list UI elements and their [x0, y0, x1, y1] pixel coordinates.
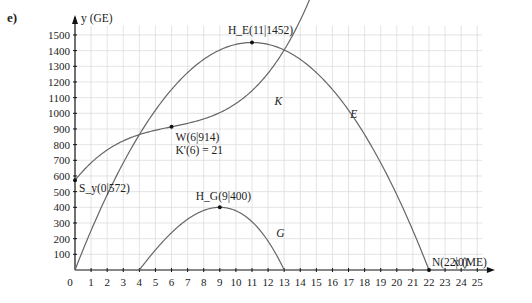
y-tick-label: 900 — [54, 123, 71, 135]
x-tick-label: 11 — [247, 276, 258, 288]
y-tick-label: 1500 — [48, 29, 71, 41]
x-axis-arrow-icon — [487, 267, 495, 273]
y-tick-label: 100 — [54, 248, 71, 260]
point-s_y — [73, 178, 77, 182]
curve-label-e: E — [349, 108, 357, 120]
x-tick-label: 16 — [327, 276, 339, 288]
x-tick-label: 22 — [423, 276, 434, 288]
y-tick-label: 500 — [54, 186, 71, 198]
y-tick-label: 1000 — [48, 107, 71, 119]
y-tick-label: 400 — [54, 201, 71, 213]
x-tick-label: 7 — [185, 276, 191, 288]
x-tick-label: 18 — [359, 276, 371, 288]
y-tick-label: 700 — [54, 154, 71, 166]
x-tick-label: 25 — [472, 276, 484, 288]
point-label-w: W(6|914) — [176, 131, 220, 144]
x-tick-label: 6 — [169, 276, 175, 288]
x-tick-label: 2 — [104, 276, 110, 288]
y-tick-label: 1100 — [48, 92, 70, 104]
y-tick-label: 1300 — [48, 60, 71, 72]
x-tick-label: 23 — [440, 276, 452, 288]
x-tick-label: 13 — [279, 276, 291, 288]
point-h_g — [218, 205, 222, 209]
y-tick-label: 600 — [54, 170, 71, 182]
x-tick-label: 9 — [217, 276, 223, 288]
point-note-w: K'(6) = 21 — [176, 144, 224, 157]
x-tick-label: 15 — [311, 276, 323, 288]
x-tick-label: 10 — [230, 276, 242, 288]
y-tick-label: 1400 — [48, 45, 71, 57]
point-label-n: N(22|0) — [432, 256, 468, 269]
x-tick-label: 17 — [343, 276, 355, 288]
x-tick-label: 4 — [137, 276, 143, 288]
x-tick-label: 19 — [375, 276, 387, 288]
x-tick-label: 14 — [295, 276, 307, 288]
y-tick-label: 300 — [54, 217, 71, 229]
point-w — [170, 125, 174, 129]
y-axis-arrow-icon — [72, 15, 78, 24]
x-tick-label: 20 — [391, 276, 403, 288]
y-tick-label: 1200 — [48, 76, 71, 88]
curve-label-g: G — [276, 227, 285, 239]
point-n — [427, 268, 431, 272]
x-tick-label: 1 — [88, 276, 94, 288]
chart: 1234567891011121314151617181920212223242… — [0, 0, 532, 303]
x-tick-label: 21 — [407, 276, 418, 288]
point-h_e — [250, 40, 254, 44]
y-axis-label: y (GE) — [81, 12, 113, 25]
point-label-s_y: S_y(0|572) — [79, 182, 130, 195]
y-tick-label: 800 — [54, 139, 71, 151]
curve-label-k: K — [274, 95, 284, 107]
x-tick-label: 12 — [263, 276, 274, 288]
y-tick-label: 200 — [54, 233, 71, 245]
origin-label: 0 — [67, 276, 73, 288]
x-tick-label: 3 — [121, 276, 127, 288]
x-tick-label: 24 — [456, 276, 468, 288]
x-tick-label: 8 — [201, 276, 207, 288]
x-tick-label: 5 — [153, 276, 159, 288]
point-label-h_g: H_G(9|400) — [196, 190, 251, 203]
point-label-h_e: H_E(11|1452) — [228, 24, 293, 37]
